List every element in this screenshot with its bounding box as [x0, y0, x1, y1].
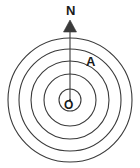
north-arrow-group	[64, 20, 77, 101]
north-direction-label: N	[66, 4, 75, 17]
wavefront-canvas	[0, 0, 140, 168]
point-a-label: A	[86, 55, 95, 68]
wavefront-diagram: N A O	[0, 0, 140, 168]
north-arrow-head-icon	[64, 20, 77, 32]
origin-label: O	[64, 99, 73, 111]
